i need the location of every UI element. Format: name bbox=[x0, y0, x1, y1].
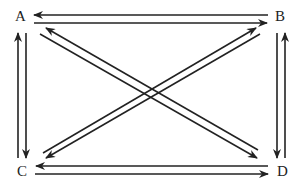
node-a-label: A bbox=[15, 8, 26, 24]
edge-b-to-c bbox=[46, 34, 260, 158]
node-c-label: C bbox=[17, 163, 27, 179]
edge-c-to-b bbox=[43, 28, 256, 153]
node-b-label: B bbox=[275, 8, 285, 24]
node-d-label: D bbox=[277, 163, 288, 179]
diagram-canvas: A B C D bbox=[0, 0, 302, 192]
edge-a-to-d bbox=[40, 34, 257, 158]
